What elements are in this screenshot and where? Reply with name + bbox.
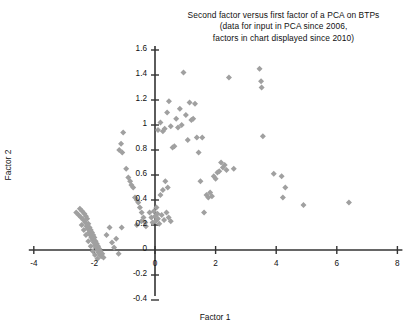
y-tick-label: 1.4	[121, 69, 147, 78]
data-point	[177, 106, 183, 112]
data-point	[168, 123, 174, 129]
data-point	[280, 195, 286, 201]
data-point	[157, 192, 163, 198]
data-point	[346, 200, 352, 206]
data-point	[180, 70, 186, 76]
data-point-group	[73, 66, 352, 262]
data-point	[185, 137, 191, 143]
data-point	[199, 135, 205, 141]
y-tick-label: 0.6	[121, 169, 147, 178]
y-tick-label: 0.4	[121, 194, 147, 203]
data-point	[282, 185, 288, 191]
x-axis-title: Factor 1	[155, 312, 275, 322]
data-point	[187, 100, 193, 106]
scatter-chart: Second factor versus first factor of a P…	[0, 0, 417, 336]
data-point	[107, 225, 113, 231]
data-point	[104, 232, 110, 238]
y-tick-label: 0.8	[121, 144, 147, 153]
data-point	[183, 112, 189, 118]
y-axis-title: Factor 2	[3, 135, 13, 195]
y-tick-label: 0	[121, 244, 147, 253]
data-point	[113, 236, 119, 242]
data-point	[197, 178, 203, 184]
x-tick-label: 8	[382, 259, 412, 268]
y-tick-label: 1.6	[121, 44, 147, 53]
data-point	[196, 150, 202, 156]
data-point	[259, 85, 265, 91]
x-tick-label: -4	[19, 259, 49, 268]
data-point	[137, 205, 143, 211]
data-point	[258, 78, 264, 84]
data-point	[160, 187, 166, 193]
data-point	[155, 127, 161, 133]
x-tick-label: -2	[79, 259, 109, 268]
data-point	[192, 101, 198, 107]
data-point	[162, 178, 168, 184]
data-point	[271, 171, 277, 177]
data-point	[260, 133, 266, 139]
x-tick-label: 6	[322, 259, 352, 268]
data-point	[165, 185, 171, 191]
data-point	[257, 66, 263, 72]
data-point	[226, 75, 232, 81]
y-tick-label: -0.2	[121, 269, 147, 278]
data-point	[139, 210, 145, 216]
data-point	[201, 210, 207, 216]
x-tick-label: 0	[140, 259, 170, 268]
y-tick-label: 1.2	[121, 94, 147, 103]
data-point	[194, 135, 200, 141]
y-tick-label: 0.2	[121, 219, 147, 228]
data-point	[166, 98, 172, 104]
data-point	[164, 110, 170, 116]
plot-area	[0, 0, 417, 336]
data-point	[300, 202, 306, 208]
x-tick-label: 2	[201, 259, 231, 268]
y-tick-label: 1	[121, 119, 147, 128]
y-tick-label: -0.4	[121, 294, 147, 303]
x-tick-label: 4	[261, 259, 291, 268]
data-point	[120, 130, 126, 136]
data-point	[231, 166, 237, 172]
data-point	[173, 116, 179, 122]
data-point	[279, 173, 285, 179]
